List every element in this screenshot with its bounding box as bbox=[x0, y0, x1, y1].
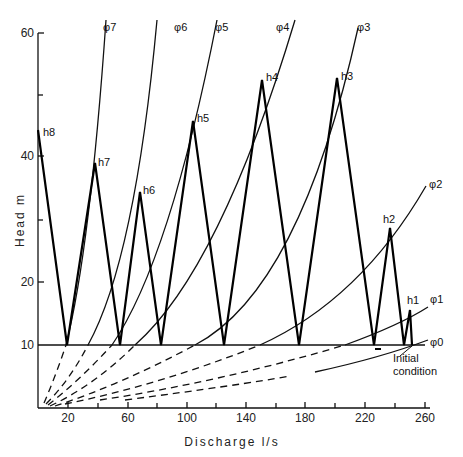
label-h7: h7 bbox=[98, 156, 110, 168]
label-phi0: φ0 bbox=[430, 336, 443, 348]
label-h4: h4 bbox=[266, 71, 278, 83]
label-h1: h1 bbox=[407, 294, 419, 306]
label-phi1: φ1 bbox=[430, 293, 443, 305]
x-tick-20: 20 bbox=[61, 411, 75, 425]
label-h5: h5 bbox=[197, 112, 209, 124]
label-phi3: φ3 bbox=[357, 21, 370, 33]
curve-phi6-dashed bbox=[46, 345, 88, 404]
y-tick-60: 60 bbox=[21, 26, 35, 40]
y-axis-title: Head m bbox=[13, 193, 27, 247]
curve-phi1-dashed bbox=[100, 345, 345, 400]
label-phi4: φ4 bbox=[276, 21, 289, 33]
x-tick-140: 140 bbox=[236, 411, 256, 425]
x-tick-100: 100 bbox=[177, 411, 197, 425]
label-h3: h3 bbox=[341, 70, 353, 82]
x-tick-60: 60 bbox=[121, 411, 135, 425]
annotation-initial: Initial bbox=[393, 352, 419, 364]
annotation-condition: condition bbox=[393, 365, 437, 377]
curve-phi0-dashed bbox=[125, 376, 290, 400]
y-tick-40: 40 bbox=[21, 149, 35, 163]
label-h6: h6 bbox=[143, 184, 155, 196]
label-phi6: φ6 bbox=[174, 21, 187, 33]
x-tick-260: 260 bbox=[415, 411, 435, 425]
y-tick-20: 20 bbox=[21, 275, 35, 289]
x-tick-220: 220 bbox=[355, 411, 375, 425]
label-phi7: φ7 bbox=[103, 21, 116, 33]
label-h8: h8 bbox=[43, 126, 55, 138]
curve-phi4 bbox=[135, 20, 295, 345]
curve-phi1 bbox=[345, 307, 428, 345]
curve-phi7 bbox=[66, 20, 106, 345]
label-phi2: φ2 bbox=[429, 178, 442, 190]
x-tick-180: 180 bbox=[295, 411, 315, 425]
pump-transient-chart: 60 40 20 10 20 60 100 140 180 220 260 He… bbox=[0, 0, 463, 457]
label-h2: h2 bbox=[383, 213, 395, 225]
y-tick-10: 10 bbox=[21, 338, 35, 352]
x-axis-title: Discharge l/s bbox=[184, 435, 279, 449]
label-phi5: φ5 bbox=[215, 21, 228, 33]
axes bbox=[38, 33, 430, 408]
